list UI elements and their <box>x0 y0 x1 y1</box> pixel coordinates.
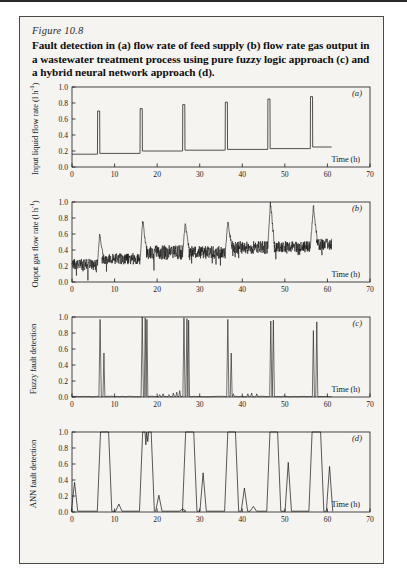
svg-text:0.2: 0.2 <box>59 492 69 501</box>
svg-text:0.0: 0.0 <box>59 278 69 287</box>
svg-text:10: 10 <box>111 285 119 294</box>
figure-frame: Figure 10.8 Fault detection in (a) flow … <box>19 16 384 564</box>
panel-a-letter: (a) <box>352 88 362 98</box>
svg-text:50: 50 <box>281 170 289 179</box>
svg-text:60: 60 <box>324 515 332 524</box>
svg-text:30: 30 <box>196 285 204 294</box>
panel-b-plot-area: 0.00.20.40.60.81.0010203040506070 <box>46 196 376 302</box>
panel-a-plot-area: 0.00.20.40.60.81.0010203040506070 <box>46 81 376 187</box>
svg-text:0.2: 0.2 <box>59 377 69 386</box>
svg-text:0.6: 0.6 <box>59 345 69 354</box>
svg-text:20: 20 <box>153 400 161 409</box>
panel-d-y-axis-label: ANN fault detection <box>28 428 42 520</box>
panel-b-y-axis-label: Ouput gas flow rate (l h-1) <box>28 198 42 290</box>
svg-text:0.0: 0.0 <box>59 393 69 402</box>
svg-text:0: 0 <box>70 170 74 179</box>
svg-text:1.0: 1.0 <box>59 428 69 437</box>
chart-panel-a: Input liquid flow rate (l h-1) 0.00.20.4… <box>30 79 378 192</box>
panel-a-svg: 0.00.20.40.60.81.0010203040506070 <box>46 81 376 187</box>
svg-text:0.0: 0.0 <box>59 508 69 517</box>
svg-text:1.0: 1.0 <box>59 83 69 92</box>
panel-a-y-axis-label: Input liquid flow rate (l h-1) <box>28 83 42 175</box>
svg-text:0.8: 0.8 <box>59 214 69 223</box>
svg-text:1.0: 1.0 <box>59 313 69 322</box>
svg-text:0.8: 0.8 <box>59 99 69 108</box>
chart-panel-d: ANN fault detection 0.00.20.40.60.81.001… <box>30 424 378 537</box>
figure-caption-text: Fault detection in (a) flow rate of feed… <box>32 39 374 80</box>
figure-caption-block: Figure 10.8 Fault detection in (a) flow … <box>32 25 374 80</box>
panel-c-letter: (c) <box>352 318 362 328</box>
figure-number: Figure 10.8 <box>32 25 374 36</box>
svg-text:60: 60 <box>324 170 332 179</box>
svg-text:20: 20 <box>153 170 161 179</box>
svg-text:0.8: 0.8 <box>59 329 69 338</box>
svg-text:0: 0 <box>70 515 74 524</box>
svg-text:0.4: 0.4 <box>59 476 69 485</box>
panel-d-x-axis-label: Time (h) <box>332 500 360 509</box>
svg-text:60: 60 <box>324 400 332 409</box>
svg-text:0.6: 0.6 <box>59 115 69 124</box>
figure-page: Figure 10.8 Fault detection in (a) flow … <box>0 0 407 586</box>
panel-c-plot-area: 0.00.20.40.60.81.0010203040506070 <box>46 311 376 417</box>
svg-text:30: 30 <box>196 400 204 409</box>
svg-text:0.0: 0.0 <box>59 163 69 172</box>
svg-text:50: 50 <box>281 515 289 524</box>
panel-c-svg: 0.00.20.40.60.81.0010203040506070 <box>46 311 376 417</box>
svg-text:0.6: 0.6 <box>59 460 69 469</box>
svg-text:0: 0 <box>70 285 74 294</box>
chart-panel-c: Fuzzy fault detection 0.00.20.40.60.81.0… <box>30 309 378 422</box>
svg-text:50: 50 <box>281 400 289 409</box>
panel-c-y-axis-label: Fuzzy fault detection <box>28 313 42 405</box>
panel-d-svg: 0.00.20.40.60.81.0010203040506070 <box>46 426 376 532</box>
svg-text:0.4: 0.4 <box>59 361 69 370</box>
svg-text:70: 70 <box>366 170 374 179</box>
svg-text:0.4: 0.4 <box>59 131 69 140</box>
panel-b-x-axis-label: Time (h) <box>332 270 360 279</box>
svg-text:50: 50 <box>281 285 289 294</box>
panel-d-letter: (d) <box>352 433 362 443</box>
panel-b-svg: 0.00.20.40.60.81.0010203040506070 <box>46 196 376 302</box>
svg-text:0.2: 0.2 <box>59 262 69 271</box>
svg-text:30: 30 <box>196 515 204 524</box>
svg-text:0.6: 0.6 <box>59 230 69 239</box>
svg-text:20: 20 <box>153 515 161 524</box>
svg-text:60: 60 <box>324 285 332 294</box>
panel-b-letter: (b) <box>352 203 362 213</box>
svg-text:40: 40 <box>238 515 246 524</box>
svg-text:70: 70 <box>366 515 374 524</box>
svg-text:10: 10 <box>111 170 119 179</box>
svg-text:70: 70 <box>366 400 374 409</box>
svg-text:0.4: 0.4 <box>59 246 69 255</box>
svg-text:10: 10 <box>111 515 119 524</box>
svg-text:1.0: 1.0 <box>59 198 69 207</box>
svg-text:0.8: 0.8 <box>59 444 69 453</box>
chart-panel-b: Ouput gas flow rate (l h-1) 0.00.20.40.6… <box>30 194 378 307</box>
svg-text:40: 40 <box>238 400 246 409</box>
svg-text:30: 30 <box>196 170 204 179</box>
svg-text:40: 40 <box>238 170 246 179</box>
panel-d-plot-area: 0.00.20.40.60.81.0010203040506070 <box>46 426 376 532</box>
svg-text:40: 40 <box>238 285 246 294</box>
panel-c-x-axis-label: Time (h) <box>332 385 360 394</box>
panel-a-x-axis-label: Time (h) <box>332 155 360 164</box>
svg-text:0.2: 0.2 <box>59 147 69 156</box>
svg-text:0: 0 <box>70 400 74 409</box>
svg-text:10: 10 <box>111 400 119 409</box>
svg-text:20: 20 <box>153 285 161 294</box>
svg-text:70: 70 <box>366 285 374 294</box>
